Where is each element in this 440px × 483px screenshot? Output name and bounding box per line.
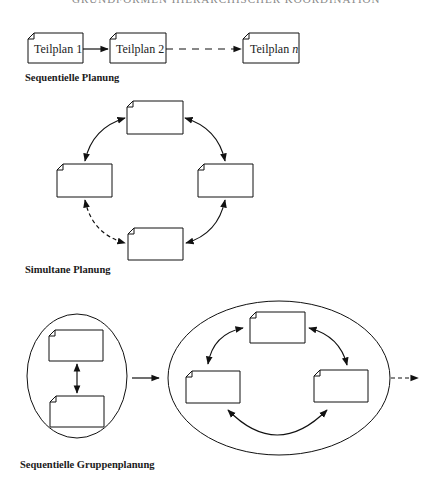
teilplan-n-label: Teilplan n	[250, 42, 298, 56]
group2-document-top	[250, 312, 305, 343]
group-diagram	[27, 301, 418, 455]
document-box-teilplan-2: Teilplan 2	[110, 33, 166, 63]
bidirectional-arrow-top-left-g2	[208, 328, 243, 364]
bidirectional-arrow-left-right-g2	[228, 410, 327, 435]
teilplan-2-label: Teilplan 2	[116, 42, 164, 56]
label-simultaneous-planning: Simultane Planung	[25, 264, 110, 275]
document-box-right	[198, 164, 253, 197]
label-sequential-planning: Sequentielle Planung	[25, 72, 119, 83]
group2-document-right	[314, 370, 368, 402]
document-box-teilplan-n: Teilplan n	[243, 33, 299, 63]
group1-document-bottom	[50, 396, 104, 427]
document-box-teilplan-1: Teilplan 1	[28, 33, 83, 63]
teilplan-1-label: Teilplan 1	[34, 42, 82, 56]
document-box-bottom	[128, 228, 183, 260]
dashed-bidirectional-arrow-bottom-left	[85, 200, 125, 243]
bidirectional-arrow-top-right-g2	[309, 328, 347, 365]
sequential-diagram: Teilplan 1 Teilplan 2 Teilplan n	[28, 33, 299, 63]
bidirectional-arrow-right-bottom	[186, 200, 225, 243]
group1-document-top	[49, 330, 103, 361]
document-box-left	[57, 164, 112, 197]
bidirectional-arrow-top-left	[85, 118, 125, 161]
document-box-top	[127, 101, 183, 134]
simultaneous-diagram	[57, 101, 253, 260]
bidirectional-arrow-top-right	[185, 118, 225, 161]
group2-document-left	[186, 371, 240, 403]
label-sequential-group-planning: Sequentielle Gruppenplanung	[20, 459, 155, 470]
